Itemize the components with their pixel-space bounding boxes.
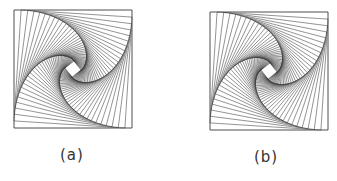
whirl-square-diagram-b [0, 0, 337, 181]
panel-b: (b) [0, 0, 337, 181]
caption-b: (b) [254, 148, 278, 166]
